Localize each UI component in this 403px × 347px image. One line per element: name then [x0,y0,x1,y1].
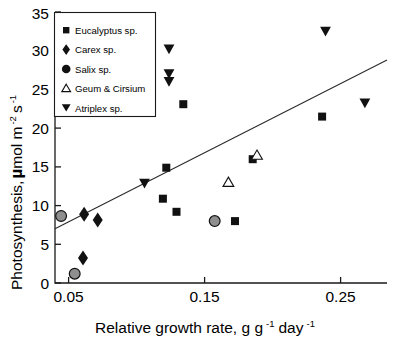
data-point [162,164,170,172]
figure-container: 0 5 10 15 20 25 30 35 0.05 0.15 0.25 [0,0,403,347]
series-atriplex [139,27,370,189]
data-point [320,27,331,37]
series-carex [78,207,103,266]
x-axis-ticks [69,277,341,283]
x-tick-label-015: 0.15 [190,288,220,305]
data-point [159,195,167,203]
x-axis-title-sup2: -1 [307,318,315,329]
legend-label-atriplex: Atriplex sp. [75,103,122,114]
y-tick-label-25: 25 [32,81,49,98]
y-tick-label-20: 20 [32,120,50,137]
legend-marker-filled-square-icon [63,27,69,33]
y-tick-labels: 0 5 10 15 20 25 30 35 [32,5,50,292]
svg-text:Relative growth rate, g g-1day: Relative growth rate, g g-1day-1 [95,318,315,336]
x-axis-title-sup1: -1 [266,318,274,329]
series-salix [56,211,220,280]
legend-label-eucalyptus: Eucalyptus sp. [75,25,137,36]
x-axis-title: Relative growth rate, g g-1day-1 [95,318,315,336]
y-tick-label-15: 15 [32,158,49,175]
data-point [164,77,175,87]
legend-label-salix: Salix sp. [75,64,111,75]
data-point [179,100,187,108]
data-point [318,113,326,121]
y-axis-title-part1: Photosynthesis, [8,181,25,290]
x-axis-title-mid: day [279,319,304,336]
x-axis-title-main: Relative growth rate, g g [95,319,263,336]
data-point [231,217,239,225]
svg-text:Photosynthesis,µmol m-2s-1: Photosynthesis,µmol m-2s-1 [7,95,26,290]
y-axis-title-part3: s [8,105,25,113]
y-axis-title: Photosynthesis,µmol m-2s-1 [7,95,26,290]
y-axis-title-mu: µ [7,169,26,179]
data-point [79,207,89,222]
y-tick-label-30: 30 [32,42,50,59]
data-point [209,216,220,227]
data-point [69,268,80,279]
series-geum-cirsium [223,150,262,186]
x-tick-labels: 0.05 0.15 0.25 [54,288,356,305]
x-tick-label-005: 0.05 [54,288,84,305]
data-point [78,251,88,266]
data-point [252,150,263,159]
legend-label-carex: Carex sp. [75,44,116,55]
scatter-plot: 0 5 10 15 20 25 30 35 0.05 0.15 0.25 [0,0,403,347]
y-tick-label-5: 5 [40,236,49,253]
data-point [173,208,181,216]
legend: Eucalyptus sp. Carex sp. Salix sp. Geum … [55,13,156,117]
y-axis-title-sup1: -2 [7,116,18,124]
y-axis-title-part2: mol m [8,127,25,169]
data-point [223,177,234,186]
data-point [164,45,175,55]
y-axis-title-sup2: -1 [7,95,18,103]
y-tick-label-10: 10 [32,197,50,214]
data-point [93,213,103,228]
legend-label-geum-cirsium: Geum & Cirsium [75,83,145,94]
data-point [56,211,67,222]
y-tick-label-35: 35 [32,5,49,22]
legend-marker-filled-circle-icon [62,65,71,74]
y-tick-label-0: 0 [40,275,49,292]
data-point [360,99,371,109]
data-point [139,179,150,189]
x-tick-label-025: 0.25 [326,288,356,305]
